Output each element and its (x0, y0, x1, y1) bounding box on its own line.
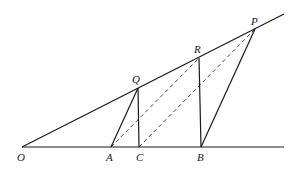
label-c: C (136, 151, 144, 163)
label-a: A (105, 151, 113, 163)
label-r: R (193, 43, 201, 55)
dashed-segment-ar (111, 58, 199, 147)
segment-qc (138, 88, 139, 147)
geometry-diagram: O A C B Q R P (0, 0, 298, 174)
label-p: P (250, 15, 258, 27)
segment-rb (199, 58, 201, 147)
segment-aq (111, 88, 138, 147)
ray-op (22, 14, 284, 147)
segment-bp (201, 29, 255, 147)
label-b: B (197, 151, 204, 163)
label-q: Q (132, 73, 140, 85)
label-o: O (17, 151, 25, 163)
